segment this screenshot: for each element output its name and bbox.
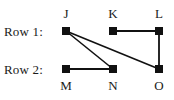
edge-J-O [66, 31, 159, 69]
node-label-J: J [58, 6, 74, 22]
node-O[interactable] [155, 65, 163, 73]
node-M[interactable] [62, 65, 70, 73]
node-L[interactable] [155, 27, 163, 35]
edge-J-N [66, 31, 113, 69]
row-1-label: Row 1: [4, 24, 43, 40]
node-J[interactable] [62, 27, 70, 35]
node-K[interactable] [109, 27, 117, 35]
node-label-M: M [58, 78, 74, 94]
graph-diagram: Row 1: Row 2: J K L M N O [0, 0, 174, 100]
node-N[interactable] [109, 65, 117, 73]
node-label-N: N [105, 78, 121, 94]
edge-layer [0, 0, 174, 100]
node-label-L: L [151, 6, 167, 22]
node-label-O: O [151, 78, 167, 94]
row-2-label: Row 2: [4, 62, 43, 78]
node-label-K: K [105, 6, 121, 22]
